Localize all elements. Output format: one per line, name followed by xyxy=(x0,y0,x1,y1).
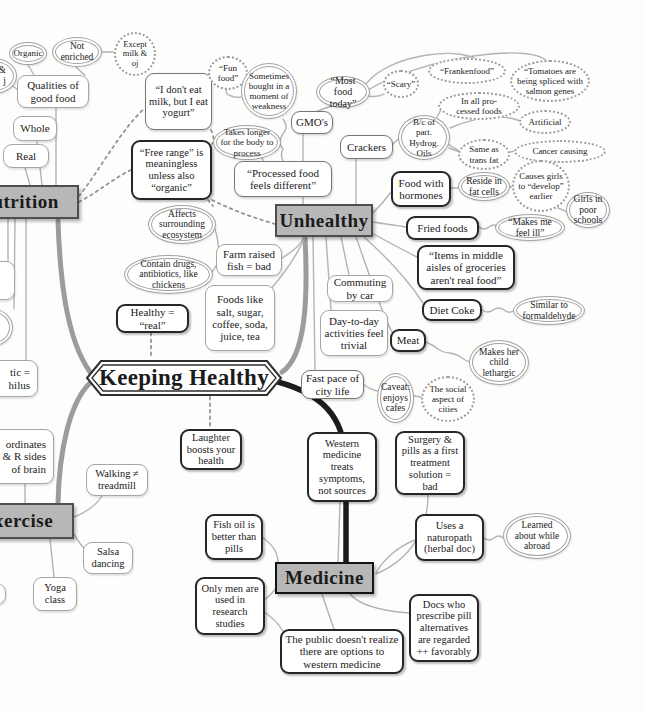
node-uses-naturopath[interactable]: Uses a naturopath (herbal doc) xyxy=(415,514,484,561)
node-in-all-processed[interactable]: In all pro- cessed foods xyxy=(438,92,520,120)
node-public-doesnt-realize[interactable]: The public doesn't realize there are opt… xyxy=(280,629,404,674)
node-most-food-today[interactable]: “Most food today” xyxy=(316,76,370,108)
node-similar-formaldehyde[interactable]: Similar to formaldehyde xyxy=(513,296,585,325)
node-items-middle-aisles[interactable]: “Items in middle aisles of groceries are… xyxy=(417,245,515,290)
node-western-medicine[interactable]: Western medicine treats symptoms, not so… xyxy=(307,432,377,502)
node-affects-ecosystem[interactable]: Affects surrounding ecosystem xyxy=(148,205,216,244)
node-scary[interactable]: “Scary” xyxy=(383,70,419,98)
node-surgery-pills[interactable]: Surgery & pills as a first treatment sol… xyxy=(395,431,465,495)
node-makes-child-lethargic[interactable]: Makes her child lethargic xyxy=(469,340,529,385)
node-commuting-by-car[interactable]: Commuting by car xyxy=(327,275,393,302)
node-food-with-hormones[interactable]: Food with hormones xyxy=(391,171,451,207)
node-social-aspect[interactable]: The social aspect of cities xyxy=(421,376,475,422)
node-contain-drugs[interactable]: Contain drugs, antibiotics, like chicken… xyxy=(124,255,213,294)
node-tomatoes-spliced[interactable]: “Tomatoes are being spliced with salmon … xyxy=(510,60,590,102)
node-makes-me-feel-ill[interactable]: “Makes me feel ill” xyxy=(495,214,565,241)
node-qualities-good-food[interactable]: Qualities of good food xyxy=(17,75,89,108)
node-coordinates-partial[interactable]: ordinates & R sides of brain xyxy=(0,429,54,484)
central-node[interactable]: Keeping Healthy xyxy=(87,360,281,396)
node-not-enriched[interactable]: Not enriched xyxy=(52,37,102,67)
node-clipped-box[interactable] xyxy=(0,261,15,300)
node-docs-prescribe[interactable]: Docs who prescribe pill alternatives are… xyxy=(409,594,479,662)
node-takes-longer[interactable]: Takes longer for the body to process xyxy=(213,125,281,160)
node-healthy-real[interactable]: Healthy = “real” xyxy=(116,304,189,333)
node-fried-foods[interactable]: Fried foods xyxy=(406,216,479,240)
node-fish-oil[interactable]: Fish oil is better than pills xyxy=(205,514,263,560)
node-foods-like-salt[interactable]: Foods like salt, sugar, coffee, soda, ju… xyxy=(205,285,275,351)
node-fast-pace-city[interactable]: Fast pace of city life xyxy=(301,370,364,399)
branch-exercise[interactable]: Exercise xyxy=(0,503,74,539)
branch-medicine[interactable]: Medicine xyxy=(275,562,374,594)
node-except-milk-oj[interactable]: Except milk & oj xyxy=(114,32,156,76)
node-probiotic-partial[interactable]: tic = hilus xyxy=(0,360,38,397)
node-laughter-boosts[interactable]: Laughter boosts your health xyxy=(180,429,242,470)
node-organic[interactable]: Organic xyxy=(9,42,47,65)
node-artificial[interactable]: Artificial xyxy=(519,110,571,134)
node-gmos[interactable]: GMO's xyxy=(291,111,333,134)
node-weakness[interactable]: Sometimes bought in a moment of weakness xyxy=(241,63,297,119)
node-only-men-research[interactable]: Only men are used in research studies xyxy=(195,577,265,635)
node-bc-hydrog-oils[interactable]: B/c of part. Hydrog. Oils xyxy=(398,115,450,160)
node-reside-fat-cells[interactable]: Reside in fat cells xyxy=(458,172,510,201)
node-frankenfood[interactable]: “Frankenfood” xyxy=(428,58,506,84)
node-causes-girls-develop[interactable]: Causes girls to “develop” earlier xyxy=(512,160,570,212)
node-farm-raised-fish[interactable]: Farm raised fish = bad xyxy=(216,244,282,276)
node-processed-food[interactable]: “Processed food feels different” xyxy=(234,161,332,197)
node-girls-poor-schools[interactable]: Girls in poor schools xyxy=(566,192,610,228)
node-crackers[interactable]: Crackers xyxy=(340,135,393,159)
node-whole[interactable]: Whole xyxy=(13,116,57,141)
branch-nutrition[interactable]: Nutrition xyxy=(0,185,79,219)
node-free-range[interactable]: “Free range” is meaningless unless also … xyxy=(131,140,212,200)
node-learned-abroad[interactable]: Learned about while abroad xyxy=(503,513,571,559)
node-walking-treadmill[interactable]: Walking ≠ treadmill xyxy=(86,464,148,496)
node-yoga-class[interactable]: Yoga class xyxy=(33,577,77,611)
node-caveat-cafes[interactable]: Caveat: enjoys cafes xyxy=(377,373,414,423)
node-same-as-trans-fat[interactable]: Same as trans fat xyxy=(458,139,510,170)
node-cancer-causing[interactable]: Cancer causing xyxy=(514,140,606,163)
node-i-dont-eat-milk[interactable]: “I don't eat milk, but I eat yogurt” xyxy=(145,73,212,130)
mindmap-canvas: Keeping Healthy Nutrition Unhealthy Exer… xyxy=(0,0,645,711)
node-day-to-day[interactable]: Day-to-day activities feel trivial xyxy=(320,310,388,356)
node-salsa-dancing[interactable]: Salsa dancing xyxy=(83,542,133,574)
node-meat[interactable]: Meat xyxy=(390,329,426,352)
node-diet-coke[interactable]: Diet Coke xyxy=(422,299,482,321)
node-real[interactable]: Real xyxy=(3,144,49,168)
branch-unhealthy[interactable]: Unhealthy xyxy=(275,204,373,237)
